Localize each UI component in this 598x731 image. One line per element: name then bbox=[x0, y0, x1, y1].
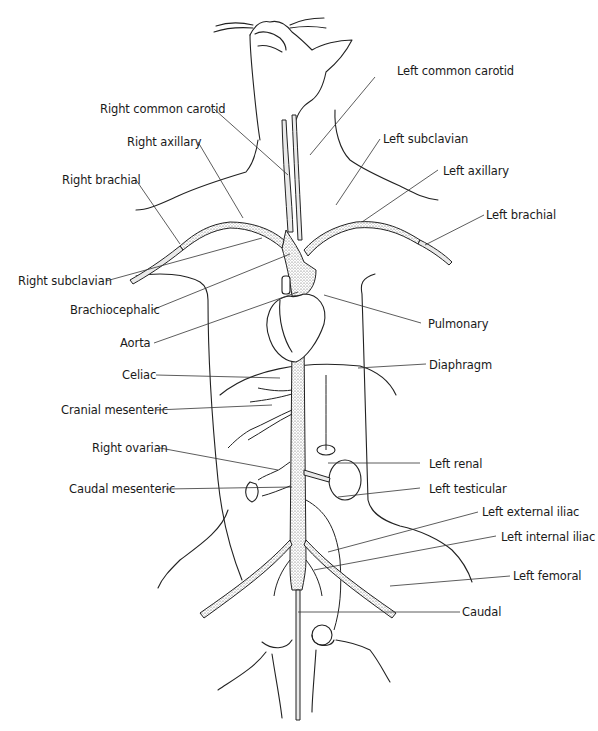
label-left-testicular: Left testicular bbox=[429, 482, 507, 496]
label-aorta: Aorta bbox=[120, 336, 151, 350]
label-left-subclavian: Left subclavian bbox=[383, 132, 468, 146]
label-cranial-mesenteric: Cranial mesenteric bbox=[61, 403, 168, 417]
label-left-internal-iliac: Left internal iliac bbox=[501, 530, 595, 544]
cat-arterial-diagram bbox=[0, 0, 598, 731]
arteries bbox=[130, 115, 452, 720]
label-left-renal: Left renal bbox=[429, 457, 482, 471]
label-right-axillary: Right axillary bbox=[127, 135, 202, 149]
label-left-external-iliac: Left external iliac bbox=[482, 505, 579, 519]
label-left-femoral: Left femoral bbox=[513, 569, 581, 583]
label-diaphragm: Diaphragm bbox=[429, 358, 492, 372]
label-right-common-carotid: Right common carotid bbox=[100, 102, 226, 116]
label-caudal: Caudal bbox=[462, 605, 501, 619]
label-pulmonary: Pulmonary bbox=[428, 317, 488, 331]
label-left-brachial: Left brachial bbox=[486, 208, 556, 222]
label-left-common-carotid: Left common carotid bbox=[397, 64, 514, 78]
label-right-subclavian: Right subclavian bbox=[18, 274, 112, 288]
label-left-axillary: Left axillary bbox=[443, 164, 509, 178]
label-caudal-mesenteric: Caudal mesenteric bbox=[69, 482, 175, 496]
label-right-ovarian: Right ovarian bbox=[92, 441, 168, 455]
label-brachiocephalic: Brachiocephalic bbox=[70, 303, 160, 317]
label-celiac: Celiac bbox=[122, 368, 156, 382]
label-right-brachial: Right brachial bbox=[62, 173, 141, 187]
